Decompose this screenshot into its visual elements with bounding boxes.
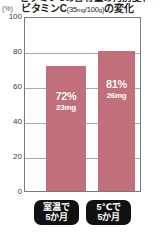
chart-title-suffix: の変化 <box>104 3 133 14</box>
bar-five-degrees[interactable]: 81% 26mg <box>98 51 135 191</box>
category-room-temperature-line1: 室温で <box>34 202 79 212</box>
chart-title-prefix: ビタミンC <box>21 3 67 14</box>
bar-room-temperature-labels: 72% 23mg <box>46 91 86 112</box>
paren-unit-1: mg <box>77 7 85 13</box>
plot-area: 72% 23mg 81% 26mg <box>24 17 141 192</box>
x-axis-categories: 室温で 5か月 5℃で 5か月 <box>24 196 141 230</box>
y-tick-60: 60 <box>0 83 22 91</box>
category-five-degrees-line2: 5か月 <box>86 212 131 222</box>
bar-room-temperature-amount: 23mg <box>46 104 86 112</box>
category-pill-five-degrees[interactable]: 5℃で 5か月 <box>86 200 131 225</box>
chart-title-row: (%) ビタミンC(35mg/100g)の変化 <box>0 3 159 16</box>
category-five-degrees-line1: 5℃で <box>86 202 131 212</box>
y-tick-80: 80 <box>0 48 22 56</box>
bar-five-degrees-percent: 81% <box>98 79 135 90</box>
y-tick-20: 20 <box>0 153 22 161</box>
chart-title: ビタミンC(35mg/100g)の変化 <box>21 3 133 16</box>
y-tick-100: 100 <box>0 13 22 21</box>
category-room-temperature-line2: 5か月 <box>34 212 79 222</box>
bars-layer: 72% 23mg 81% 26mg <box>25 18 140 191</box>
category-pill-room-temperature[interactable]: 室温で 5か月 <box>34 200 79 225</box>
bar-five-degrees-amount: 26mg <box>98 92 135 100</box>
y-tick-40: 40 <box>0 118 22 126</box>
paren-number-1: 35 <box>69 5 77 14</box>
chart-title-parenthetical: (35mg/100g) <box>67 5 104 14</box>
y-tick-0: 0 <box>0 188 22 196</box>
bar-room-temperature-percent: 72% <box>46 91 86 102</box>
clipped-headline: ビタミンCの含有量の月別変化 <box>20 0 145 2</box>
vitamin-c-bar-chart: ビタミンCの含有量の月別変化 (%) ビタミンC(35mg/100g)の変化 1… <box>0 0 159 232</box>
bar-five-degrees-labels: 81% 26mg <box>98 79 135 100</box>
paren-number-2: 100 <box>87 5 99 14</box>
bar-room-temperature[interactable]: 72% 23mg <box>46 66 86 191</box>
y-axis-ticks: 100 80 60 40 20 0 <box>0 17 22 192</box>
